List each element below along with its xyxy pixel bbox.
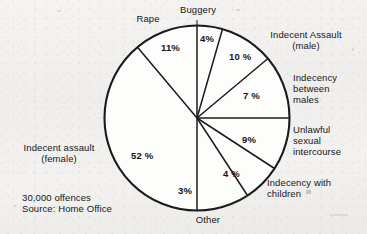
value-label-indecency-between-males: 7 %	[243, 90, 260, 101]
category-label-rape: Rape	[126, 13, 170, 24]
category-label-indecent-assault-male-line1: Indecent Assault	[254, 29, 358, 40]
value-label-indecency-with-children: 4 %	[223, 168, 240, 179]
category-label-buggery: Buggery	[172, 4, 224, 15]
category-label-indecency-between-males-line3: males	[293, 94, 365, 105]
scan-speck	[58, 10, 61, 12]
category-label-unlawful-sexual-intercourse-line2: sexual	[293, 135, 367, 146]
category-label-rape-text: Rape	[136, 13, 159, 24]
category-label-other-text: Other	[196, 214, 220, 225]
category-label-indecent-assault-female-line2: (female)	[7, 153, 111, 164]
value-label-indecent-assault-male: 10 %	[229, 51, 251, 62]
footnote-source: Source: Home Office	[22, 203, 112, 214]
category-label-indecent-assault-male-line2: (male)	[254, 40, 358, 51]
scan-speck	[352, 48, 354, 51]
category-label-unlawful-sexual-intercourse-line1: Unlawful	[293, 124, 367, 135]
category-label-unlawful-sexual-intercourse-line3: intercourse	[293, 146, 367, 157]
category-label-other: Other	[186, 214, 230, 225]
category-label-indecency-with-children-line2: children	[267, 188, 365, 199]
category-label-indecent-assault-female: Indecent assault (female)	[7, 142, 111, 164]
value-label-buggery: 4%	[200, 33, 214, 44]
value-label-indecent-assault-female: 52 %	[131, 150, 153, 161]
value-label-unlawful-sexual-intercourse: 9%	[242, 134, 256, 145]
footnote-total: 30,000 offences	[22, 192, 112, 203]
chart-footnote: 30,000 offences Source: Home Office	[22, 192, 112, 214]
value-label-other: 3%	[178, 185, 192, 196]
category-label-buggery-text: Buggery	[180, 4, 216, 15]
scan-speck	[306, 190, 311, 194]
scan-speck	[14, 205, 16, 207]
category-label-indecency-between-males: Indecency between males	[293, 72, 365, 106]
scan-speck	[330, 214, 348, 216]
category-label-indecent-assault-male: Indecent Assault (male)	[254, 29, 358, 51]
scan-speck	[236, 9, 240, 11]
category-label-indecency-with-children: Indecency with children	[267, 177, 365, 199]
category-label-indecency-between-males-line2: between	[293, 83, 365, 94]
category-label-indecent-assault-female-line1: Indecent assault	[7, 142, 111, 153]
category-label-indecency-between-males-line1: Indecency	[293, 72, 365, 83]
scanned-page-background: Rape Buggery Indecent Assault (male) Ind…	[0, 0, 367, 234]
value-label-rape: 11%	[161, 42, 180, 53]
category-label-unlawful-sexual-intercourse: Unlawful sexual intercourse	[293, 124, 367, 158]
category-label-indecency-with-children-line1: Indecency with	[267, 177, 365, 188]
